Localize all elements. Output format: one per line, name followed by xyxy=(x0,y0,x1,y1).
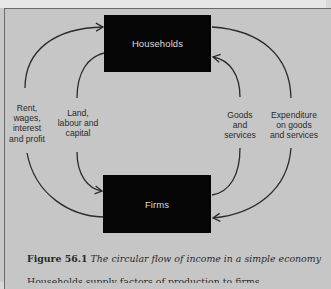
figure-number: Figure 56.1 xyxy=(27,253,88,264)
figure-caption: Figure 56.1 The circular flow of income … xyxy=(27,254,327,265)
flow-expenditure-lower xyxy=(213,148,291,218)
households-node: Households xyxy=(104,15,211,72)
flow-label-land: Land, labour and capital xyxy=(48,108,108,139)
flow-rent-lower xyxy=(27,153,103,217)
figure-title: The circular flow of income in a simple … xyxy=(91,253,321,264)
flow-goods-upper xyxy=(213,57,240,97)
flow-label-rent: Rent, wages, interest and profit xyxy=(2,103,52,144)
flow-label-expenditure: Expenditure on goods and services xyxy=(262,110,326,141)
firms-node: Firms xyxy=(103,175,211,233)
households-label: Households xyxy=(132,38,183,49)
flow-land-upper xyxy=(77,53,104,98)
body-text-partial: Households supply factors of production … xyxy=(27,277,327,283)
flow-goods-lower xyxy=(212,148,240,195)
firms-label: Firms xyxy=(145,199,169,210)
flow-expenditure-upper xyxy=(212,27,291,98)
flow-label-goods: Goods and services xyxy=(219,110,261,141)
flow-land-lower xyxy=(77,152,102,191)
flow-rent-upper xyxy=(25,27,103,88)
